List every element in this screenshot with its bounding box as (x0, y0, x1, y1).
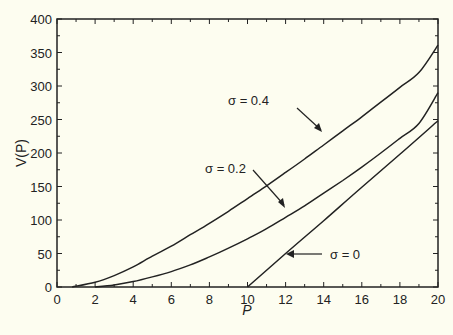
y-tick-label: 150 (30, 180, 52, 195)
x-tick-label: 0 (53, 292, 60, 307)
plot-curves (72, 45, 438, 287)
series-line-1 (95, 93, 438, 287)
axis-ticks: 0246810121416182005010015020025030035040… (30, 12, 445, 307)
y-tick-label: 200 (30, 146, 52, 161)
x-tick-label: 6 (168, 292, 175, 307)
annotation-sigma-0.4: σ = 0.4 (228, 93, 322, 132)
x-tick-label: 18 (393, 292, 407, 307)
series-line-0 (72, 45, 438, 287)
y-tick-label: 100 (30, 213, 52, 228)
x-tick-label: 2 (91, 292, 98, 307)
arrow-icon (253, 170, 284, 205)
x-axis-label: P (242, 302, 252, 318)
x-tick-label: 8 (206, 292, 213, 307)
y-tick-label: 300 (30, 79, 52, 94)
y-tick-label: 50 (38, 247, 52, 262)
y-tick-label: 400 (30, 12, 52, 27)
y-tick-label: 250 (30, 113, 52, 128)
x-tick-label: 12 (278, 292, 292, 307)
y-tick-label: 0 (45, 280, 52, 295)
annotation-label: σ = 0.4 (228, 93, 269, 108)
x-tick-label: 16 (355, 292, 369, 307)
x-tick-label: 14 (316, 292, 330, 307)
annotation-sigma-0: σ = 0 (286, 247, 360, 262)
x-tick-label: 4 (130, 292, 137, 307)
y-tick-label: 350 (30, 46, 52, 61)
series-line-2 (248, 121, 439, 287)
y-axis-label: V(P) (13, 139, 29, 167)
chart: 0246810121416182005010015020025030035040… (0, 0, 453, 335)
annotation-label: σ = 0.2 (205, 161, 246, 176)
annotation-label: σ = 0 (330, 247, 360, 262)
x-tick-label: 20 (431, 292, 445, 307)
